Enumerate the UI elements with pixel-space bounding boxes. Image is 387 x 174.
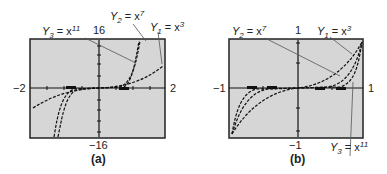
ymin-label-a: −16 bbox=[89, 139, 108, 151]
label-y1-a: Y1 = x3 bbox=[150, 20, 185, 36]
flat-segment-a-left bbox=[66, 86, 76, 89]
xmin-label-b: −1 bbox=[213, 82, 226, 94]
xmax-label-a: 2 bbox=[170, 82, 176, 94]
flat-segment-b-left2 bbox=[267, 86, 277, 89]
flat-segment-b-right1 bbox=[315, 87, 325, 90]
xmin-label-a: −2 bbox=[13, 82, 26, 94]
ymax-label-a: 16 bbox=[93, 24, 105, 36]
label-y2-a: Y2 = x7 bbox=[110, 9, 145, 25]
flat-segment-b-left1 bbox=[247, 86, 257, 89]
caption-b: (b) bbox=[290, 152, 305, 166]
label-y3-b: Y3 = x11 bbox=[330, 140, 368, 156]
flat-segment-a-right bbox=[119, 87, 129, 90]
label-y2-b: Y2 = x7 bbox=[232, 24, 267, 40]
ymin-label-b: −1 bbox=[289, 139, 302, 151]
flat-segment-b-right2 bbox=[336, 87, 346, 90]
xmax-label-b: 1 bbox=[368, 82, 374, 94]
figure: Y3 = x11 Y2 = x7 Y1 = x3 16 −16 −2 2 (a) bbox=[0, 0, 387, 174]
panel-a: Y3 = x11 Y2 = x7 Y1 = x3 16 −16 −2 2 (a) bbox=[13, 9, 185, 166]
label-y1-b: Y1 = x3 bbox=[317, 24, 352, 40]
panel-b: Y2 = x7 Y1 = x3 Y3 = x11 1 −1 −1 1 (b) bbox=[213, 24, 374, 166]
ymax-label-b: 1 bbox=[295, 24, 301, 36]
label-y3-a: Y3 = x11 bbox=[42, 24, 80, 40]
caption-a: (a) bbox=[91, 152, 106, 166]
